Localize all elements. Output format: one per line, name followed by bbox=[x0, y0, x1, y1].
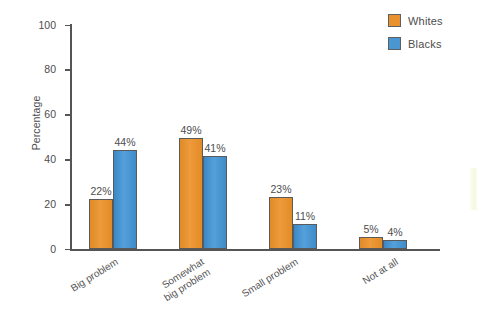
y-tick-80: 80 bbox=[65, 69, 70, 71]
bar-whites-somewhat-big-problem[interactable]: 49% bbox=[179, 138, 203, 248]
y-tick-40: 40 bbox=[65, 159, 70, 161]
plot-area: 0 20 40 60 80 100 22% 44% 49% bbox=[70, 24, 440, 250]
bar-whites-small-problem[interactable]: 23% bbox=[269, 197, 293, 249]
x-category-label-small-problem: Small problem bbox=[233, 256, 300, 304]
bar-group-big-problem: 22% 44% bbox=[89, 24, 137, 249]
bar-value-blacks-small-problem: 11% bbox=[295, 210, 315, 222]
bar-chart: Whites Blacks Percentage 0 20 40 60 80 1… bbox=[0, 0, 478, 326]
x-category-label-big-problem: Big problem bbox=[53, 256, 120, 304]
y-tick-100: 100 bbox=[65, 25, 70, 27]
x-axis-line bbox=[70, 249, 440, 251]
bar-blacks-somewhat-big-problem[interactable]: 41% bbox=[203, 156, 227, 248]
bar-value-whites-somewhat-big-problem: 49% bbox=[180, 124, 201, 136]
bar-group-somewhat-big-problem: 49% 41% bbox=[179, 24, 227, 249]
x-category-label-somewhat-big-problem: Somewhat big problem bbox=[139, 256, 213, 315]
y-tick-0: 0 bbox=[65, 249, 70, 251]
y-tick-label-40: 40 bbox=[44, 153, 56, 165]
y-tick-label-60: 60 bbox=[44, 108, 56, 120]
y-tick-label-0: 0 bbox=[50, 243, 56, 255]
bar-value-blacks-not-at-all: 4% bbox=[387, 226, 402, 238]
bar-blacks-big-problem[interactable]: 44% bbox=[113, 150, 137, 249]
bar-value-blacks-somewhat-big-problem: 41% bbox=[204, 142, 225, 154]
bar-blacks-not-at-all[interactable]: 4% bbox=[383, 240, 407, 249]
y-tick-label-100: 100 bbox=[38, 19, 56, 31]
bar-group-not-at-all: 5% 4% bbox=[359, 24, 407, 249]
x-category-label-not-at-all: Not at all bbox=[333, 256, 400, 304]
y-tick-label-20: 20 bbox=[44, 198, 56, 210]
bar-whites-big-problem[interactable]: 22% bbox=[89, 199, 113, 249]
bar-group-small-problem: 23% 11% bbox=[269, 24, 317, 249]
y-tick-label-80: 80 bbox=[44, 63, 56, 75]
page-edge-artifact bbox=[469, 168, 478, 210]
y-tick-20: 20 bbox=[65, 204, 70, 206]
bar-whites-not-at-all[interactable]: 5% bbox=[359, 237, 383, 248]
y-axis-title: Percentage bbox=[30, 78, 42, 168]
bar-value-whites-not-at-all: 5% bbox=[363, 223, 378, 235]
bar-value-whites-big-problem: 22% bbox=[90, 185, 111, 197]
bar-blacks-small-problem[interactable]: 11% bbox=[293, 224, 317, 249]
bar-value-blacks-big-problem: 44% bbox=[114, 136, 135, 148]
y-axis-line bbox=[70, 24, 72, 250]
bar-value-whites-small-problem: 23% bbox=[270, 183, 291, 195]
y-tick-60: 60 bbox=[65, 114, 70, 116]
